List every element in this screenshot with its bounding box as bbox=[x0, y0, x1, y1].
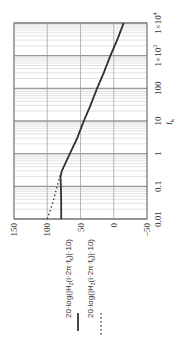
value-tick-label: 0 bbox=[109, 223, 119, 228]
value-tick-label: 100 bbox=[42, 223, 52, 237]
legend-entry-h3: 20·log(|H3(i·2π·fk)|·10) bbox=[86, 239, 101, 336]
bode-magnitude-chart: 150100500−50 0.010.11101001×1031×104 fk … bbox=[0, 0, 181, 356]
frequency-axis-ticks: 0.010.11101001×1031×104 bbox=[152, 12, 163, 227]
legend-label-h2: 20·log(|H2(i·2π·fk)|·10) bbox=[64, 239, 74, 318]
frequency-tick-label: 1 bbox=[153, 151, 163, 156]
frequency-tick-label: 10 bbox=[153, 116, 163, 126]
frequency-tick-label: 100 bbox=[153, 81, 163, 95]
frequency-tick-label: 0.1 bbox=[153, 181, 163, 192]
legend: 20·log(|H2(i·2π·fk)|·10) 20·log(|H3(i·2π… bbox=[64, 239, 101, 336]
value-tick-label: 150 bbox=[9, 223, 19, 237]
value-axis-ticks: 150100500−50 bbox=[9, 223, 152, 238]
frequency-tick-label: 0.01 bbox=[153, 211, 163, 227]
value-tick-label: −50 bbox=[142, 223, 152, 238]
legend-entry-h2: 20·log(|H2(i·2π·fk)|·10) bbox=[64, 239, 78, 331]
value-tick-label: 50 bbox=[76, 223, 86, 233]
frequency-tick-label: 1×104 bbox=[152, 12, 163, 34]
legend-label-h3: 20·log(|H3(i·2π·fk)|·10) bbox=[86, 239, 96, 318]
frequency-tick-label: 1×103 bbox=[152, 45, 163, 67]
frequency-axis-label: fk bbox=[164, 119, 175, 125]
